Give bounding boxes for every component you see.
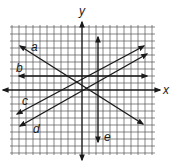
y-axis-label: y [78, 4, 86, 18]
line-c-label: c [22, 94, 28, 108]
line-e-label: e [104, 130, 111, 144]
line-a-label: a [31, 40, 38, 54]
coordinate-graph: x y a b c d e [0, 0, 170, 163]
x-axis-label: x [162, 83, 170, 97]
line-b-label: b [16, 61, 23, 75]
line-d-label: d [33, 122, 40, 136]
